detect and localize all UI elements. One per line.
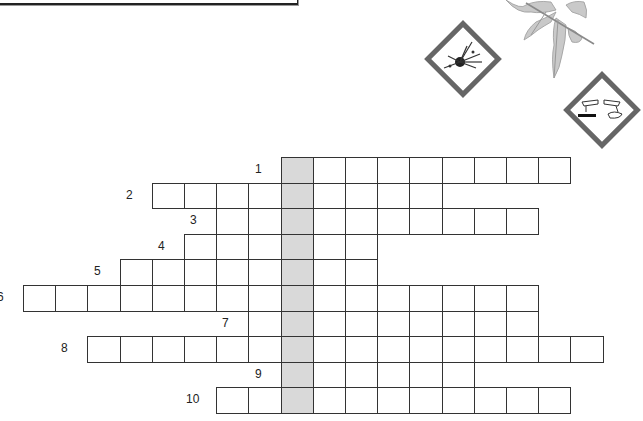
crossword-cell[interactable] [345,259,378,286]
crossword-cell[interactable] [409,311,443,337]
solution-cell[interactable] [281,387,314,414]
crossword-cell[interactable] [313,336,346,363]
crossword-cell[interactable] [216,285,249,312]
crossword-cell[interactable] [313,387,346,414]
crossword-cell[interactable] [152,259,185,286]
crossword-cell[interactable] [409,285,443,312]
crossword-cell[interactable] [248,336,282,363]
crossword-cell[interactable] [442,311,475,337]
crossword-cell[interactable] [474,157,507,184]
crossword-cell[interactable] [409,183,443,209]
crossword-cell[interactable] [506,285,539,312]
crossword-cell[interactable] [409,387,443,414]
crossword-cell[interactable] [506,311,539,337]
crossword-cell[interactable] [442,387,475,414]
crossword-cell[interactable] [377,387,410,414]
crossword-cell[interactable] [409,208,443,235]
crossword-cell[interactable] [184,285,217,312]
crossword-cell[interactable] [248,183,282,209]
solution-cell[interactable] [281,157,314,184]
crossword-cell[interactable] [570,336,604,363]
crossword-cell[interactable] [313,183,346,209]
crossword-cell[interactable] [506,336,539,363]
crossword-cell[interactable] [184,336,217,363]
solution-cell[interactable] [281,259,314,286]
crossword-cell[interactable] [409,362,443,388]
crossword-cell[interactable] [506,387,539,414]
crossword-cell[interactable] [506,208,539,235]
crossword-cell[interactable] [409,157,443,184]
crossword-cell[interactable] [87,285,121,312]
crossword-cell[interactable] [313,208,346,235]
crossword-cell[interactable] [345,362,378,388]
crossword-cell[interactable] [538,157,571,184]
crossword-cell[interactable] [474,336,507,363]
crossword-cell[interactable] [184,259,217,286]
crossword-cell[interactable] [506,157,539,184]
crossword-cell[interactable] [474,285,507,312]
crossword-cell[interactable] [442,362,475,388]
crossword-cell[interactable] [377,362,410,388]
crossword-cell[interactable] [184,234,217,260]
crossword-cell[interactable] [313,234,346,260]
crossword-cell[interactable] [345,234,378,260]
crossword-cell[interactable] [120,285,153,312]
crossword-cell[interactable] [345,387,378,414]
crossword-cell[interactable] [216,336,249,363]
solution-cell[interactable] [281,311,314,337]
crossword-cell[interactable] [120,336,153,363]
crossword-cell[interactable] [248,387,282,414]
crossword-cell[interactable] [216,259,249,286]
crossword-cell[interactable] [538,336,571,363]
crossword-cell[interactable] [120,259,153,286]
crossword-cell[interactable] [23,285,56,312]
crossword-cell[interactable] [377,208,410,235]
crossword-cell[interactable] [377,285,410,312]
crossword-cell[interactable] [377,336,410,363]
solution-cell[interactable] [281,183,314,209]
crossword-cell[interactable] [248,208,282,235]
crossword-cell[interactable] [216,387,249,414]
crossword-cell[interactable] [313,311,346,337]
crossword-cell[interactable] [313,362,346,388]
crossword-cell[interactable] [474,387,507,414]
crossword-cell[interactable] [152,336,185,363]
crossword-cell[interactable] [248,259,282,286]
crossword-cell[interactable] [377,157,410,184]
crossword-cell[interactable] [442,285,475,312]
crossword-cell[interactable] [377,183,410,209]
crossword-cell[interactable] [377,311,410,337]
crossword-cell[interactable] [216,208,249,235]
crossword-cell[interactable] [248,285,282,312]
crossword-cell[interactable] [409,336,443,363]
crossword-cell[interactable] [216,183,249,209]
solution-cell[interactable] [281,208,314,235]
crossword-cell[interactable] [442,208,475,235]
crossword-cell[interactable] [313,157,346,184]
crossword-cell[interactable] [55,285,88,312]
crossword-cell[interactable] [345,285,378,312]
crossword-cell[interactable] [474,208,507,235]
solution-cell[interactable] [281,336,314,363]
crossword-cell[interactable] [442,157,475,184]
crossword-cell[interactable] [442,336,475,363]
crossword-cell[interactable] [248,311,282,337]
crossword-cell[interactable] [313,285,346,312]
crossword-cell[interactable] [345,183,378,209]
crossword-cell[interactable] [152,183,185,209]
crossword-cell[interactable] [345,336,378,363]
solution-cell[interactable] [281,285,314,312]
crossword-cell[interactable] [216,234,249,260]
crossword-cell[interactable] [345,311,378,337]
crossword-cell[interactable] [538,387,571,414]
crossword-cell[interactable] [87,336,121,363]
crossword-cell[interactable] [345,157,378,184]
crossword-cell[interactable] [313,259,346,286]
crossword-cell[interactable] [345,208,378,235]
crossword-cell[interactable] [152,285,185,312]
crossword-cell[interactable] [248,234,282,260]
solution-cell[interactable] [281,362,314,388]
solution-cell[interactable] [281,234,314,260]
crossword-cell[interactable] [474,311,507,337]
crossword-cell[interactable] [184,183,217,209]
